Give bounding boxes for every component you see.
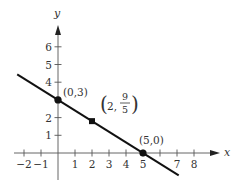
x-axis-arrow-icon bbox=[210, 150, 220, 156]
fraction-numerator: 9 bbox=[122, 91, 128, 102]
point-label-fraction: ( 2, 9 5 ) bbox=[100, 91, 139, 116]
point-label-y-intercept: (0,3) bbox=[63, 86, 88, 98]
x-tick-label: 8 bbox=[191, 158, 198, 170]
y-tick-label: 1 bbox=[45, 129, 52, 141]
x-tick-label: 3 bbox=[106, 158, 113, 170]
right-paren: ) bbox=[131, 92, 139, 116]
y-tick-label: 4 bbox=[45, 76, 52, 88]
y-tick-label: 2 bbox=[45, 112, 52, 124]
fraction-denominator: 5 bbox=[122, 104, 128, 115]
x-axis-label: x bbox=[224, 146, 231, 159]
y-axis-arrow-icon bbox=[55, 25, 61, 35]
x-tick-label: 5 bbox=[140, 158, 147, 170]
x-tick-label: 7 bbox=[174, 158, 181, 170]
y-tick-label: 6 bbox=[45, 41, 52, 53]
x-tick-label: 2 bbox=[89, 158, 96, 170]
y-axis-label: y bbox=[53, 7, 61, 20]
point-label-x-intercept: (5,0) bbox=[139, 134, 164, 146]
y-tick-label: 5 bbox=[45, 59, 52, 71]
point-marker bbox=[139, 149, 146, 156]
point-marker bbox=[89, 118, 95, 124]
x-tick-label: −1 bbox=[33, 158, 48, 170]
point-marker bbox=[54, 96, 61, 103]
x-tick-label: −2 bbox=[16, 158, 31, 170]
fraction-prefix: 2, bbox=[107, 100, 117, 112]
x-tick-label: 1 bbox=[72, 158, 79, 170]
coordinate-graph: −2−1123457812456 y x (0,3) (5,0) ( 2, 9 … bbox=[0, 0, 239, 187]
x-tick-label: 4 bbox=[123, 158, 130, 170]
